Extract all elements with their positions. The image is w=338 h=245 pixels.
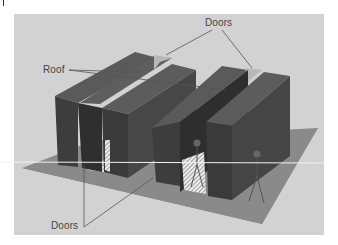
label-roof: Roof xyxy=(43,64,65,75)
containment-illustration xyxy=(0,0,338,245)
label-doors-top: Doors xyxy=(205,17,232,28)
label-doors-bottom: Doors xyxy=(51,220,78,231)
